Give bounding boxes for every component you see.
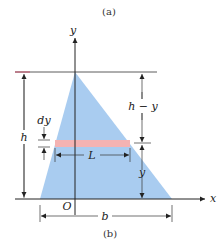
triangle-area-diagram: (a) y x O h dy L h − y y b (b) [0, 0, 218, 252]
y-dim-label: y [138, 166, 146, 179]
h-minus-y-label: h − y [128, 100, 158, 113]
caption-a: (a) [102, 6, 116, 17]
dy-label: dy [37, 114, 51, 127]
triangle-shape [40, 72, 172, 199]
y-axis-label: y [69, 24, 77, 37]
L-label: L [87, 149, 95, 162]
x-axis-label: x [210, 192, 217, 205]
caption-b: (b) [103, 228, 117, 239]
origin-label: O [62, 200, 71, 213]
h-label: h [20, 131, 27, 144]
strip-element [55, 140, 130, 147]
b-label: b [101, 210, 108, 223]
